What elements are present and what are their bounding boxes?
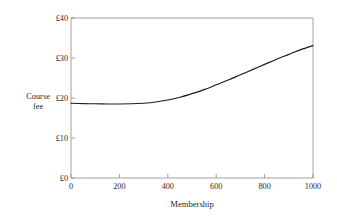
y-tick-label-0: £0 xyxy=(60,174,68,183)
x-tick-label-1000: 1000 xyxy=(305,182,321,191)
x-tick-label-0: 0 xyxy=(69,182,73,191)
y-axis-title-line-1: Course xyxy=(26,92,50,101)
y-tick-label-10: £10 xyxy=(56,134,68,143)
plot-frame xyxy=(71,18,313,178)
y-axis-ticks xyxy=(71,18,75,178)
x-tick-label-200: 200 xyxy=(113,182,125,191)
y-axis-title: Course fee xyxy=(26,92,50,111)
x-axis-title: Membership xyxy=(170,199,213,209)
course-fee-curve xyxy=(71,46,313,104)
x-tick-labels: 0 200 400 600 800 1000 xyxy=(69,182,321,191)
x-axis-ticks xyxy=(71,174,313,178)
x-tick-label-400: 400 xyxy=(162,182,174,191)
chart-figure: £0 £10 £20 £30 £40 0 200 400 600 800 100… xyxy=(0,0,337,219)
y-tick-label-30: £30 xyxy=(56,54,68,63)
y-tick-labels: £0 £10 £20 £30 £40 xyxy=(56,14,68,183)
y-tick-label-40: £40 xyxy=(56,14,68,23)
chart-svg: £0 £10 £20 £30 £40 0 200 400 600 800 100… xyxy=(0,0,337,219)
x-tick-label-600: 600 xyxy=(210,182,222,191)
y-axis-title-line-2: fee xyxy=(33,102,44,111)
y-tick-label-20: £20 xyxy=(56,94,68,103)
x-tick-label-800: 800 xyxy=(258,182,270,191)
